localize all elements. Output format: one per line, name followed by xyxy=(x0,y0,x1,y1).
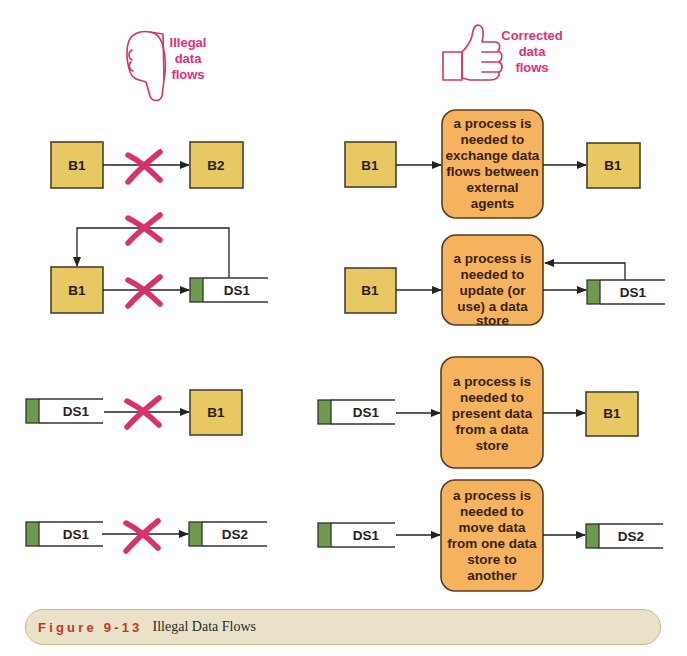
svg-text:flows between: flows between xyxy=(446,164,538,179)
external-agent-b1: B1 xyxy=(345,142,396,187)
svg-text:data: data xyxy=(519,44,547,59)
svg-text:DS2: DS2 xyxy=(618,529,644,544)
svg-text:a process is: a process is xyxy=(453,116,531,131)
figure-caption: Figure 9-13 Illegal Data Flows xyxy=(25,609,661,645)
x-mark-icon xyxy=(128,277,160,306)
svg-text:DS1: DS1 xyxy=(224,283,251,298)
corrected-heading: Corrected data flows xyxy=(501,28,562,75)
svg-text:present data: present data xyxy=(452,406,533,421)
svg-text:agents: agents xyxy=(471,196,515,211)
svg-text:a process is: a process is xyxy=(453,374,531,389)
svg-text:Corrected: Corrected xyxy=(501,28,562,43)
svg-text:exchange data: exchange data xyxy=(446,148,540,163)
external-agent-b1-target: B1 xyxy=(587,143,640,188)
x-mark-icon xyxy=(128,152,160,182)
svg-text:store: store xyxy=(476,313,510,328)
svg-text:data: data xyxy=(175,51,203,66)
svg-text:move data: move data xyxy=(459,520,526,535)
svg-text:use) a data: use) a data xyxy=(457,299,528,314)
svg-text:B1: B1 xyxy=(361,283,379,298)
data-store-ds2: DS2 xyxy=(586,524,663,548)
svg-text:another: another xyxy=(467,568,517,583)
svg-text:B1: B1 xyxy=(361,158,379,173)
svg-text:update (or: update (or xyxy=(460,283,527,298)
external-agent-b1: B1 xyxy=(51,142,103,188)
svg-text:Illegal: Illegal xyxy=(170,35,207,50)
corrected-row-2: B1 a process is needed to update (or use… xyxy=(345,235,665,328)
svg-text:store to: store to xyxy=(467,552,517,567)
process-move-data: a process is needed to move data from on… xyxy=(441,480,543,591)
data-store-ds1: DS1 xyxy=(190,278,268,302)
data-store-ds1: DS1 xyxy=(26,399,103,423)
illegal-row-4: DS1 DS2 xyxy=(26,521,267,551)
x-mark-icon xyxy=(126,521,158,551)
svg-text:DS1: DS1 xyxy=(353,405,380,420)
return-flow-arrow xyxy=(545,263,625,280)
process-exchange-data: a process is needed to exchange data flo… xyxy=(442,110,543,218)
svg-text:DS2: DS2 xyxy=(222,527,248,542)
data-store-ds1: DS1 xyxy=(318,400,395,424)
svg-text:needed to: needed to xyxy=(460,390,524,405)
external-agent-b1: B1 xyxy=(586,392,638,436)
data-store-ds1: DS1 xyxy=(26,522,103,546)
svg-text:DS1: DS1 xyxy=(63,527,90,542)
svg-text:store: store xyxy=(475,438,509,453)
svg-text:needed to: needed to xyxy=(461,132,525,147)
svg-text:flows: flows xyxy=(515,60,548,75)
corrected-row-1: B1 a process is needed to exchange data … xyxy=(345,110,640,218)
illegal-row-1: B1 B2 xyxy=(51,142,243,188)
svg-text:B1: B1 xyxy=(68,283,86,298)
x-mark-icon xyxy=(128,215,160,243)
svg-text:a process is: a process is xyxy=(453,251,531,266)
svg-text:DS1: DS1 xyxy=(63,404,90,419)
svg-text:flows: flows xyxy=(171,67,204,82)
data-flow-diagram: Illegal data flows Corrected data flows … xyxy=(0,0,687,656)
external-agent-b2: B2 xyxy=(190,142,243,188)
svg-text:from one data: from one data xyxy=(447,536,537,551)
svg-text:needed to: needed to xyxy=(461,267,525,282)
svg-text:from a data: from a data xyxy=(456,422,529,437)
svg-text:B1: B1 xyxy=(68,158,86,173)
svg-text:B1: B1 xyxy=(207,405,225,420)
svg-text:B1: B1 xyxy=(603,406,621,421)
data-store-ds1: DS1 xyxy=(587,280,665,304)
data-store-ds2: DS2 xyxy=(189,522,267,546)
figure-label: Figure 9-13 xyxy=(38,620,143,635)
thumbs-up-icon xyxy=(443,25,502,80)
corrected-row-3: DS1 a process is needed to present data … xyxy=(318,357,638,468)
thumbs-down-icon xyxy=(127,32,165,101)
illegal-row-2: B1 DS1 xyxy=(51,215,268,313)
process-update-data-store: a process is needed to update (or use) a… xyxy=(442,235,543,328)
illegal-heading: Illegal data flows xyxy=(170,35,207,82)
process-present-data: a process is needed to present data from… xyxy=(441,357,543,468)
illegal-row-3: DS1 B1 xyxy=(26,390,242,435)
svg-text:external: external xyxy=(467,180,519,195)
svg-text:B2: B2 xyxy=(207,158,224,173)
svg-text:needed to: needed to xyxy=(460,504,524,519)
svg-text:a process is: a process is xyxy=(453,488,531,503)
svg-text:B1: B1 xyxy=(604,158,622,173)
svg-text:DS1: DS1 xyxy=(620,285,647,300)
svg-text:DS1: DS1 xyxy=(353,528,380,543)
external-agent-b1: B1 xyxy=(345,268,396,313)
external-agent-b1: B1 xyxy=(190,390,242,435)
external-agent-b1: B1 xyxy=(51,267,103,313)
figure-title: Illegal Data Flows xyxy=(153,619,256,635)
data-store-ds1: DS1 xyxy=(318,523,395,547)
corrected-row-4: DS1 a process is needed to move data fro… xyxy=(318,480,663,591)
